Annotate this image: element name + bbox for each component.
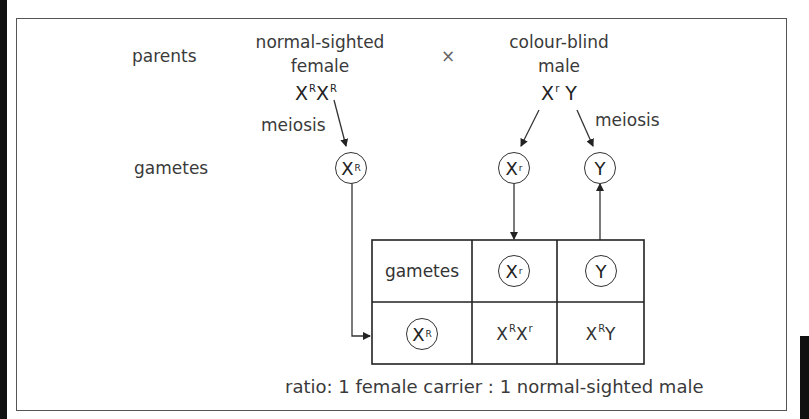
offspring-female-carrier: XRXr xyxy=(472,302,557,364)
punnett-col-gamete-xr: Xr xyxy=(498,255,530,287)
connector-arrows xyxy=(0,0,809,419)
female-phenotype-line2: female xyxy=(291,56,350,76)
punnett-header-label: gametes xyxy=(372,240,472,302)
male-phenotype-line2: male xyxy=(538,56,580,76)
female-genotype: XRXR xyxy=(295,82,337,104)
male-gamete-circle-y: Y xyxy=(584,152,616,184)
male-gamete-circle-xr: Xr xyxy=(498,152,530,184)
female-meiosis-label: meiosis xyxy=(261,115,326,135)
male-phenotype-line1: colour-blind xyxy=(509,32,609,52)
offspring-normal-male: XRY xyxy=(557,302,644,364)
punnett-col-gamete-y: Y xyxy=(585,255,617,287)
male-genotype: Xr Y xyxy=(541,82,577,104)
female-phenotype-line1: normal-sighted xyxy=(256,32,385,52)
cross-symbol: × xyxy=(441,46,455,66)
gametes-label: gametes xyxy=(134,158,208,178)
punnett-row-gamete-xR: XR xyxy=(406,318,438,350)
male-meiosis-label: meiosis xyxy=(595,110,660,130)
ratio-text: ratio: 1 female carrier : 1 normal-sight… xyxy=(285,376,704,397)
female-gamete-circle: XR xyxy=(335,152,367,184)
parents-label: parents xyxy=(132,46,197,66)
